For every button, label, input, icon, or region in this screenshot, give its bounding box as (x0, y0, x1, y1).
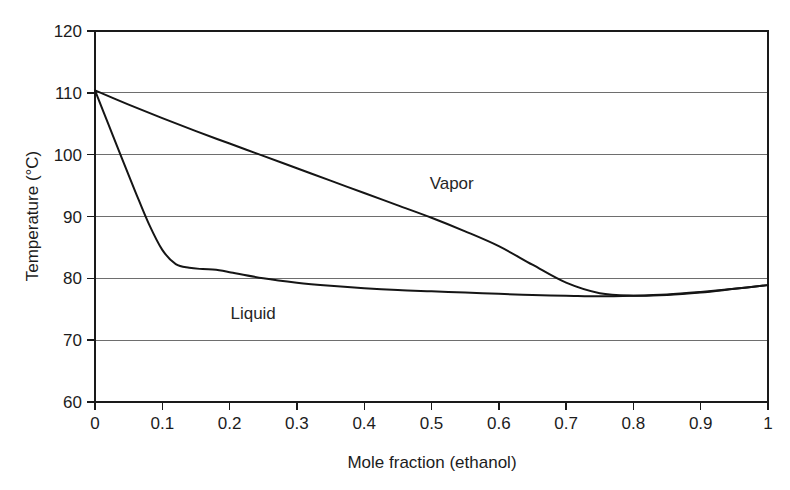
x-tick-label: 0.9 (689, 414, 713, 433)
x-tick-label: 0.4 (352, 414, 376, 433)
x-axis-tick-marks (95, 402, 768, 410)
y-axis-tick-marks (87, 31, 95, 402)
x-tick-label: 0.8 (622, 414, 646, 433)
x-tick-label: 0.2 (218, 414, 242, 433)
x-tick-label: 0.6 (487, 414, 511, 433)
x-axis-tick-labels: 00.10.20.30.40.50.60.70.80.91 (90, 414, 772, 433)
series-label-vapor: Vapor (430, 174, 474, 193)
x-tick-label: 0.5 (420, 414, 444, 433)
y-tick-label: 70 (63, 331, 82, 350)
y-tick-label: 80 (63, 269, 82, 288)
y-axis-tick-labels: 60708090100110120 (54, 22, 82, 412)
x-tick-label: 0 (90, 414, 99, 433)
chart-canvas: 60708090100110120 00.10.20.30.40.50.60.7… (0, 0, 790, 490)
y-tick-label: 120 (54, 22, 82, 41)
y-tick-label: 100 (54, 146, 82, 165)
y-tick-label: 110 (55, 84, 82, 103)
series-label-liquid: Liquid (230, 304, 275, 323)
x-axis-title: Mole fraction (ethanol) (347, 453, 516, 472)
x-tick-label: 1 (763, 414, 772, 433)
x-tick-label: 0.7 (554, 414, 578, 433)
x-tick-label: 0.1 (150, 414, 174, 433)
y-tick-label: 90 (63, 208, 82, 227)
x-tick-label: 0.3 (285, 414, 309, 433)
y-axis-title: Temperature (°C) (23, 151, 42, 282)
y-tick-label: 60 (63, 393, 82, 412)
vle-phase-diagram: 60708090100110120 00.10.20.30.40.50.60.7… (0, 0, 790, 490)
